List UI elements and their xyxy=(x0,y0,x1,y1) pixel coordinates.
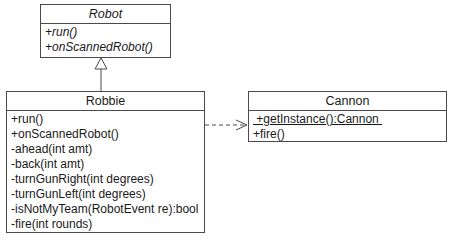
operation: +onScannedRobot() xyxy=(11,127,204,142)
operation: -turnGunLeft(int degrees) xyxy=(11,187,204,202)
operation: +onScannedRobot() xyxy=(45,40,170,55)
operations-list: +run() +onScannedRobot() xyxy=(41,24,170,55)
operation: -back(int amt) xyxy=(11,157,204,172)
operation: +fire() xyxy=(253,127,446,142)
static-operation: +getInstance():Cannon xyxy=(253,112,446,127)
operations-list: +run() +onScannedRobot() -ahead(int amt)… xyxy=(7,111,204,232)
class-robot: Robot +run() +onScannedRobot() xyxy=(40,4,171,58)
operation: -ahead(int amt) xyxy=(11,142,204,157)
class-cannon: Cannon +getInstance():Cannon +fire() xyxy=(248,91,447,142)
class-robbie: Robbie +run() +onScannedRobot() -ahead(i… xyxy=(6,91,205,233)
dependency-arrow xyxy=(205,120,247,130)
operation: +run() xyxy=(11,112,204,127)
class-name: Cannon xyxy=(249,92,446,111)
class-name: Robbie xyxy=(7,92,204,111)
operation: +run() xyxy=(45,25,170,40)
operation: -turnGunRight(int degrees) xyxy=(11,172,204,187)
class-name: Robot xyxy=(41,5,170,24)
operation: -isNotMyTeam(RobotEvent re):bool xyxy=(11,202,204,217)
generalization-arrow xyxy=(95,58,107,91)
operations-list: +getInstance():Cannon +fire() xyxy=(249,111,446,142)
operation: -fire(int rounds) xyxy=(11,217,204,232)
